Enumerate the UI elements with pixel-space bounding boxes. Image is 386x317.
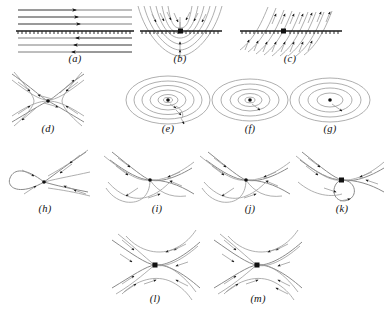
panel-d-fixed-point	[46, 99, 50, 103]
panel-l-fixed-point	[153, 263, 158, 268]
panel-l	[112, 230, 200, 300]
panel-b	[138, 6, 222, 58]
panel-caption-k: (k)	[336, 203, 348, 214]
panel-caption-c: (c)	[284, 53, 296, 64]
panel-caption-d: (d)	[42, 123, 55, 134]
figure-root: (a) (b) (c) (d) (e) (f) (g) (h) (i) (j) …	[0, 0, 386, 317]
panel-j	[200, 152, 290, 202]
panel-f	[212, 79, 288, 121]
panel-a-hatched-line	[16, 31, 134, 34]
panel-j-streamlines	[200, 152, 290, 202]
panel-g-fixed-point	[328, 98, 332, 102]
panel-i-fixed-point	[148, 178, 152, 182]
panel-b-hatched-line	[140, 29, 222, 35]
panel-c-fixed-point	[281, 29, 286, 34]
panel-h-fixed-point	[42, 180, 46, 184]
panel-caption-j: (j)	[245, 203, 256, 214]
panel-i-streamlines	[104, 152, 194, 202]
panel-k	[296, 152, 384, 201]
panel-k-fixed-point	[339, 178, 344, 183]
panel-i	[104, 152, 194, 202]
panel-caption-e: (e)	[162, 123, 174, 134]
panel-m	[214, 230, 302, 300]
panel-d	[12, 72, 84, 126]
panel-caption-f: (f)	[245, 123, 256, 134]
panel-caption-a: (a)	[69, 53, 82, 64]
panel-caption-b: (b)	[174, 53, 187, 64]
panel-h	[9, 150, 90, 196]
panel-b-fixed-point	[178, 29, 183, 34]
panel-m-fixed-point	[255, 263, 260, 268]
panel-e	[126, 76, 210, 124]
panel-d-streamlines	[12, 72, 84, 126]
panel-caption-m: (m)	[250, 293, 265, 304]
phase-portrait-diagram	[0, 0, 386, 317]
panel-f-fixed-point	[248, 98, 252, 102]
panel-e-fixed-point	[166, 98, 170, 102]
panel-caption-i: (i)	[152, 203, 163, 214]
panel-c	[240, 7, 342, 56]
panel-h-streamlines	[9, 150, 90, 196]
panel-a	[16, 10, 134, 52]
panel-g	[290, 78, 370, 122]
panel-k-streamlines	[296, 152, 384, 201]
panel-caption-l: (l)	[150, 293, 161, 304]
panel-caption-g: (g)	[324, 123, 337, 134]
panel-caption-h: (h)	[39, 203, 52, 214]
panel-j-fixed-point	[244, 178, 248, 182]
